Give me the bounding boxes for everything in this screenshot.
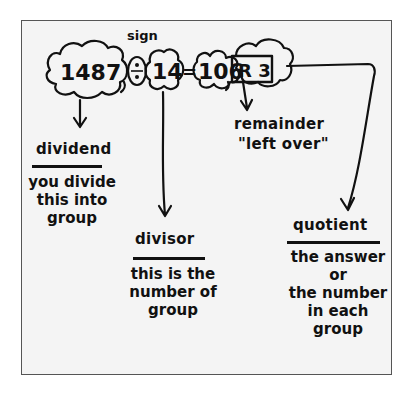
dividend-underline — [32, 165, 102, 168]
quotient-underline — [287, 241, 380, 244]
divisor-description: this is the number of group — [118, 265, 228, 319]
dividend-arrow — [74, 100, 86, 127]
quotient-term: quotient — [293, 218, 367, 233]
remainder-term: remainder — [234, 117, 324, 132]
dividend-description: you divide this into group — [22, 173, 122, 227]
divisor-value: 14 — [152, 59, 183, 84]
divisor-term: divisor — [135, 232, 195, 247]
remainder-arrow — [241, 82, 252, 110]
dividend-value: 1487 — [60, 60, 121, 85]
remainder-value: R 3 — [238, 60, 271, 81]
dividend-term: dividend — [36, 142, 112, 157]
divisor-underline — [133, 257, 205, 260]
quotient-description: the answer or the number in each group — [283, 248, 393, 338]
remainder-description: "left over" — [238, 137, 329, 152]
equals-sign: = — [182, 61, 197, 82]
divisor-arrow — [159, 92, 171, 216]
sign-label: sign — [127, 28, 158, 43]
